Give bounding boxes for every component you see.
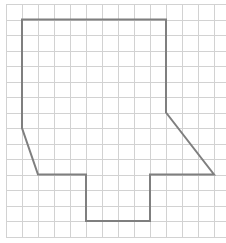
grid-figure bbox=[0, 0, 226, 243]
